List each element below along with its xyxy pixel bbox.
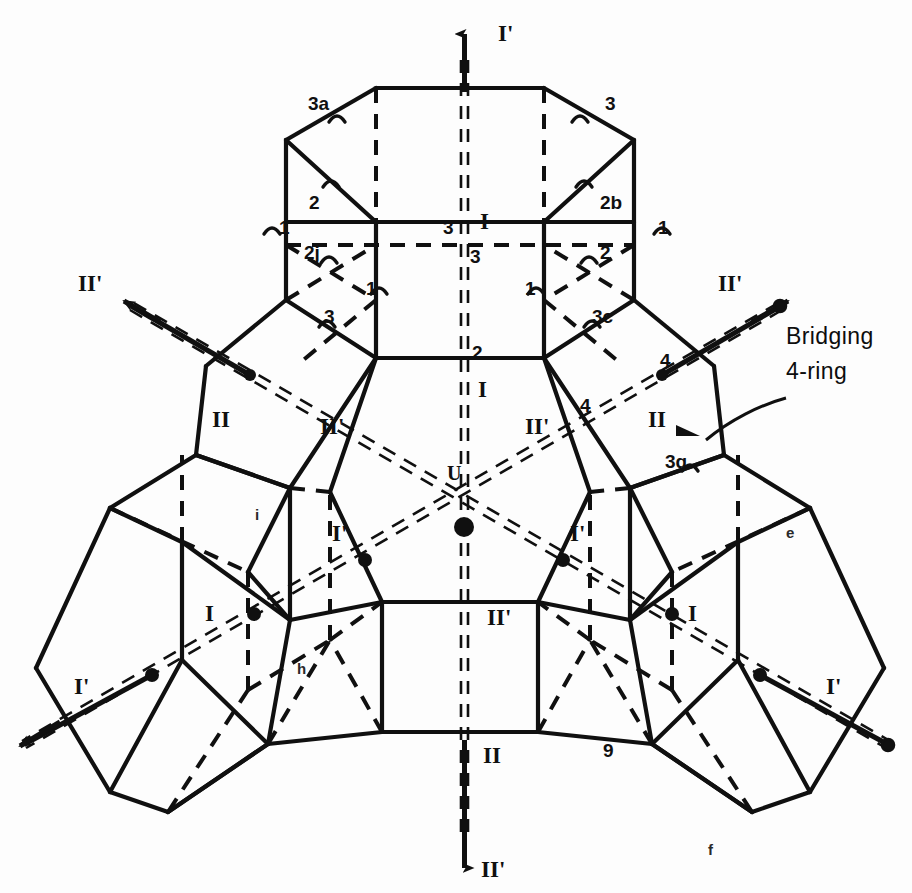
- site-1-ir: 1: [525, 279, 536, 298]
- site-4-mr: 4: [580, 396, 591, 415]
- axis-mid-right-I-prime: I': [570, 522, 585, 545]
- site-e: e: [786, 525, 794, 540]
- bond-tick: [572, 116, 588, 122]
- site-2-l: 2: [309, 193, 320, 212]
- axis-inner-left-II-prime: II': [320, 415, 344, 438]
- site-i: i: [255, 507, 259, 522]
- axis-far-right-I-prime: I': [826, 675, 841, 698]
- axis-bottom-II-prime: II': [481, 858, 505, 881]
- site-3g: 3g: [665, 452, 687, 471]
- axis-top-I-prime: I': [498, 22, 513, 45]
- site-3-ctl: 3: [443, 218, 454, 237]
- figure-canvas: I'II'II'IIII'II'III'I'III'I'IIII'IIII' 3…: [0, 0, 912, 893]
- site-3-tr: 3: [605, 94, 616, 113]
- bridging-pointer: [676, 425, 700, 436]
- site-3c: 3c: [592, 307, 613, 326]
- axis-left-II-prime: II': [78, 272, 102, 295]
- site-1-fl: 1: [279, 218, 290, 237]
- axis-nw-se: [124, 301, 894, 751]
- bond-tick: [323, 181, 339, 187]
- bridging-annotation-line1: Bridging: [786, 325, 874, 348]
- axis-center-II: II: [483, 744, 501, 767]
- site-3-bl: 3: [324, 307, 335, 326]
- axis-center-mid-I: I: [478, 378, 487, 401]
- axis-inner-right-II-prime: II': [525, 415, 549, 438]
- axis-lower-right-I: I: [688, 602, 697, 625]
- site-3-ct: 3: [470, 247, 481, 266]
- site-9: 9: [603, 741, 614, 760]
- site-2j: 2j: [304, 243, 320, 262]
- bridging-annotation-line2: 4-ring: [786, 360, 847, 383]
- axis-mid-left-I-prime: I': [332, 522, 347, 545]
- site-h: h: [297, 661, 306, 676]
- axis-vertical: [461, 34, 468, 868]
- axis-lower-left-I: I: [205, 602, 214, 625]
- site-2b: 2b: [600, 193, 622, 212]
- axis-right-II-prime: II': [718, 272, 742, 295]
- axis-inner-left-II: II: [212, 408, 230, 431]
- center-site-label: U: [447, 463, 461, 483]
- site-f: f: [708, 842, 713, 857]
- site-1-il: 1: [366, 279, 377, 298]
- bond-tick: [264, 228, 280, 234]
- bond-tick: [329, 116, 345, 122]
- site-4-ur: 4: [660, 351, 671, 370]
- framework-solid-edges: [36, 88, 884, 812]
- site-2-cb: 2: [472, 343, 483, 362]
- bond-tick: [321, 257, 337, 263]
- site-1-fr: 1: [658, 218, 669, 237]
- axis-far-left-I-prime: I': [74, 675, 89, 698]
- axis-center-top-I: I: [480, 210, 489, 233]
- framework-dashed-edges: [110, 88, 810, 812]
- bond-tick: [581, 257, 597, 263]
- site-2-r: 2: [600, 243, 611, 262]
- framework-diagram: [0, 0, 912, 893]
- axis-inner-right-II: II: [648, 408, 666, 431]
- axis-center-II-prime-up: II': [487, 606, 511, 629]
- site-3a: 3a: [308, 94, 329, 113]
